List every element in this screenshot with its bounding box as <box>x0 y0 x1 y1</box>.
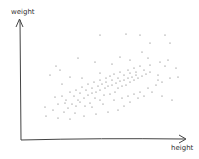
data-point <box>93 81 94 82</box>
data-point <box>157 74 158 75</box>
data-point <box>135 74 136 75</box>
data-point <box>169 77 170 78</box>
data-point <box>125 84 126 85</box>
data-point <box>115 82 116 83</box>
data-point <box>99 34 100 35</box>
data-point <box>161 95 162 96</box>
data-point <box>149 71 150 72</box>
y-axis <box>20 20 21 140</box>
data-point <box>113 73 114 74</box>
data-point <box>139 91 140 92</box>
data-point <box>141 51 142 52</box>
data-point <box>129 81 130 82</box>
data-point <box>171 99 172 100</box>
data-point <box>45 115 46 116</box>
data-point <box>123 105 124 106</box>
data-point <box>175 67 176 68</box>
y-axis-arrow <box>16 19 23 27</box>
data-points <box>44 33 178 119</box>
data-point <box>97 85 98 86</box>
data-point <box>61 95 62 96</box>
data-point <box>103 94 104 95</box>
data-point <box>131 76 132 77</box>
data-point <box>123 79 124 80</box>
data-point <box>143 95 144 96</box>
data-point <box>74 112 75 113</box>
data-point <box>87 83 88 84</box>
data-point <box>127 95 128 96</box>
data-point <box>87 94 88 95</box>
data-point <box>69 91 70 92</box>
data-point <box>137 97 138 98</box>
data-point <box>73 95 74 96</box>
data-point <box>127 69 128 70</box>
data-point <box>94 61 95 62</box>
data-point <box>157 79 158 80</box>
data-point <box>99 79 100 80</box>
data-point <box>167 59 168 60</box>
data-point <box>147 87 148 88</box>
data-point <box>119 56 120 57</box>
data-point <box>139 34 140 35</box>
data-point <box>125 33 126 34</box>
data-point <box>75 89 76 90</box>
data-point <box>117 87 118 88</box>
scatter-chart: weight height <box>0 0 199 159</box>
data-point <box>143 69 144 70</box>
data-point <box>101 83 102 84</box>
data-point <box>102 103 103 104</box>
data-point <box>95 113 96 114</box>
data-point <box>123 74 124 75</box>
data-point <box>117 109 118 110</box>
data-point <box>61 83 62 84</box>
data-point <box>121 85 122 86</box>
x-axis-label: height <box>171 144 194 152</box>
data-point <box>113 99 114 100</box>
data-point <box>164 65 165 66</box>
data-point <box>83 97 84 98</box>
data-point <box>129 59 130 60</box>
data-point <box>95 91 96 92</box>
data-point <box>64 102 65 103</box>
data-point <box>49 74 50 75</box>
data-point <box>69 76 70 77</box>
data-point <box>135 71 136 72</box>
data-point <box>159 61 160 62</box>
data-point <box>75 105 76 106</box>
data-point <box>145 73 146 74</box>
data-point <box>91 87 92 88</box>
data-point <box>164 34 165 35</box>
data-point <box>59 69 60 70</box>
data-point <box>109 93 110 94</box>
data-point <box>114 91 115 92</box>
data-point <box>65 99 66 100</box>
data-point <box>109 75 110 76</box>
data-point <box>89 102 90 103</box>
data-point <box>55 65 56 66</box>
data-point <box>71 103 72 104</box>
data-point <box>107 85 108 86</box>
data-point <box>83 115 84 116</box>
data-point <box>111 79 112 80</box>
data-point <box>105 81 106 82</box>
data-point <box>177 76 178 77</box>
data-point <box>111 63 112 64</box>
data-point <box>139 65 140 66</box>
data-point <box>129 101 130 102</box>
x-axis <box>21 139 185 140</box>
data-point <box>161 81 162 82</box>
data-point <box>81 77 82 78</box>
data-point <box>117 77 118 78</box>
data-point <box>133 93 134 94</box>
data-point <box>91 92 92 93</box>
data-point <box>105 77 106 78</box>
data-point <box>111 84 112 85</box>
data-point <box>155 84 156 85</box>
data-point <box>107 111 108 112</box>
data-point <box>57 103 58 104</box>
data-point <box>149 42 150 43</box>
data-point <box>119 71 120 72</box>
data-point <box>84 105 85 106</box>
data-point <box>149 64 150 65</box>
data-point <box>151 91 152 92</box>
